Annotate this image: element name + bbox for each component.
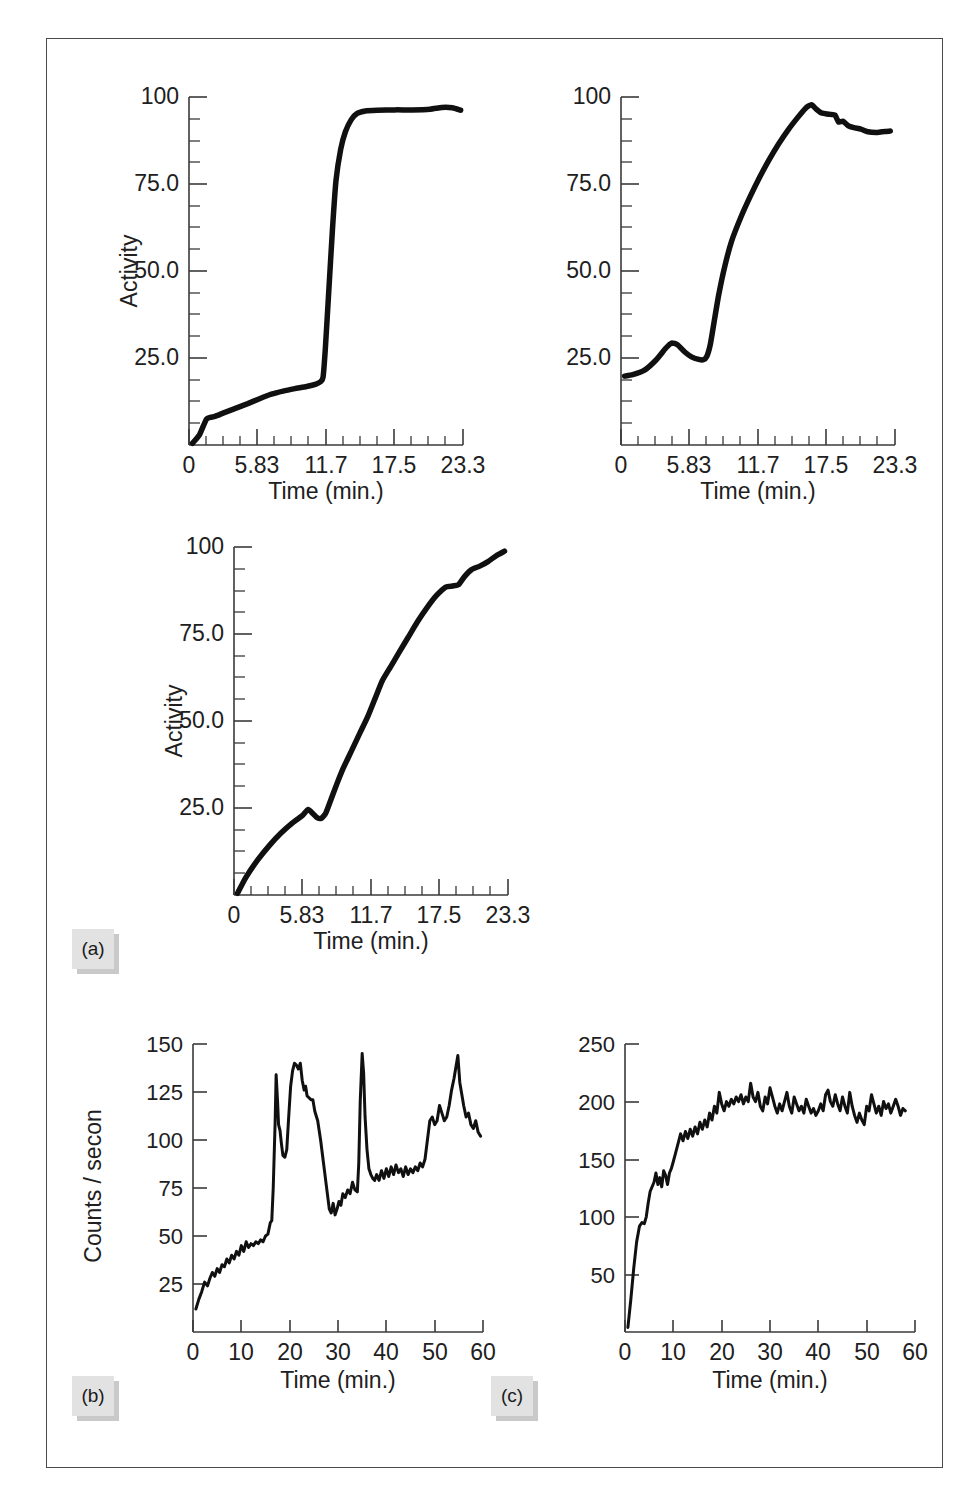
- x-axis-title: Time (min.): [313, 928, 428, 954]
- chart-panel-a-top-right: 100 75.0 50.0 25.0: [499, 59, 919, 499]
- x-tick-label: 11.7: [349, 902, 392, 928]
- y-axis-b: 150 125 100 75 50 25: [146, 1032, 207, 1332]
- y-tick-label: 75.0: [566, 170, 611, 196]
- x-tick-label: 0: [183, 452, 196, 478]
- x-tick-label: 23.3: [486, 902, 531, 928]
- x-axis-title: Time (min.): [280, 1367, 395, 1393]
- y-tick-label: 50.0: [566, 257, 611, 283]
- y-tick-label: 75: [159, 1176, 183, 1201]
- panel-label-c: (c): [491, 1376, 533, 1416]
- y-tick-label: 75.0: [179, 620, 224, 646]
- x-tick-label: 30: [757, 1339, 783, 1365]
- x-tick-label: 50: [854, 1339, 880, 1365]
- x-axis-title: Time (min.): [268, 478, 383, 504]
- y-tick-label: 50: [159, 1224, 183, 1249]
- x-tick-label: 50: [422, 1339, 448, 1365]
- y-axis-title: Counts / secon: [80, 1109, 106, 1262]
- x-tick-label: 5.83: [235, 452, 280, 478]
- y-tick-label: 150: [578, 1148, 615, 1173]
- y-axis-a3: 100 75.0 50.0 25.0: [179, 533, 252, 895]
- y-tick-label: 100: [578, 1205, 615, 1230]
- y-axis-c: 250 200 150 100 50: [578, 1032, 639, 1332]
- y-tick-label: 25.0: [566, 344, 611, 370]
- panel-label-a-text: (a): [81, 938, 104, 960]
- y-axis-title: Activity: [116, 234, 142, 307]
- x-axis-a3: 0 5.83 11.7 17.5 23.3: [228, 879, 531, 928]
- x-tick-label: 17.5: [804, 452, 849, 478]
- x-tick-label: 11.7: [304, 452, 347, 478]
- y-tick-label: 200: [578, 1090, 615, 1115]
- data-curve: [625, 105, 891, 376]
- x-axis-b: 0 10 20 30 40 50 60: [187, 1320, 496, 1365]
- x-axis-a2: 0 5.83 11.7 17.5 23.3: [615, 429, 918, 478]
- x-axis-a1: 0 5.83 11.7 17.5 23.3: [183, 429, 486, 478]
- x-tick-label: 40: [805, 1339, 831, 1365]
- y-tick-label: 100: [141, 83, 179, 109]
- x-tick-label: 20: [277, 1339, 303, 1365]
- y-tick-label: 75.0: [134, 170, 179, 196]
- x-axis-title: Time (min.): [700, 478, 815, 504]
- y-axis-a1: 100 75.0 50.0 25.0: [134, 83, 207, 445]
- panel-label-b-text: (b): [81, 1385, 104, 1407]
- x-tick-label: 23.3: [441, 452, 486, 478]
- y-axis-title: Activity: [161, 684, 187, 757]
- data-curve: [196, 1054, 481, 1309]
- chart-svg-a3: 100 75.0 50.0 25.0: [112, 509, 532, 949]
- data-curve: [193, 107, 461, 443]
- x-axis-c: 0 10 20 30 40 50 60: [619, 1320, 928, 1365]
- x-tick-label: 0: [619, 1339, 632, 1365]
- x-tick-label: 17.5: [417, 902, 462, 928]
- x-tick-label: 40: [373, 1339, 399, 1365]
- data-curve: [628, 1083, 905, 1327]
- y-tick-label: 50: [591, 1263, 615, 1288]
- x-tick-label: 0: [228, 902, 241, 928]
- x-tick-label: 60: [902, 1339, 928, 1365]
- x-tick-label: 23.3: [873, 452, 918, 478]
- y-axis-a2: 100 75.0 50.0 25.0: [566, 83, 639, 445]
- chart-panel-a-middle-left: 100 75.0 50.0 25.0: [112, 509, 532, 949]
- y-tick-label: 100: [186, 533, 224, 559]
- x-tick-label: 5.83: [667, 452, 712, 478]
- chart-svg-a2: 100 75.0 50.0 25.0: [499, 59, 919, 499]
- y-tick-label: 250: [578, 1032, 615, 1057]
- figure-frame: 100 75.0 50.0 25.0: [46, 38, 943, 1468]
- x-tick-label: 0: [187, 1339, 200, 1365]
- y-tick-label: 25.0: [134, 344, 179, 370]
- chart-panel-b: 150 125 100 75 50 25 Counts / secon: [55, 1014, 505, 1374]
- chart-svg-c: 250 200 150 100 50: [487, 1014, 937, 1374]
- chart-panel-c: 250 200 150 100 50: [487, 1014, 937, 1374]
- y-tick-label: 125: [146, 1080, 183, 1105]
- x-tick-label: 0: [615, 452, 628, 478]
- y-tick-label: 25: [159, 1272, 183, 1297]
- y-tick-label: 100: [573, 83, 611, 109]
- data-curve: [238, 551, 505, 893]
- x-tick-label: 5.83: [280, 902, 325, 928]
- y-tick-label: 25.0: [179, 794, 224, 820]
- chart-svg-a1: 100 75.0 50.0 25.0: [67, 59, 487, 499]
- x-axis-title: Time (min.): [712, 1367, 827, 1393]
- y-tick-label: 150: [146, 1032, 183, 1057]
- chart-svg-b: 150 125 100 75 50 25 Counts / secon: [55, 1014, 505, 1374]
- panel-label-b: (b): [72, 1376, 114, 1416]
- x-tick-label: 10: [660, 1339, 686, 1365]
- x-tick-label: 30: [325, 1339, 351, 1365]
- x-tick-label: 11.7: [736, 452, 779, 478]
- y-tick-label: 100: [146, 1128, 183, 1153]
- x-tick-label: 20: [709, 1339, 735, 1365]
- panel-label-a: (a): [72, 929, 114, 969]
- x-tick-label: 10: [228, 1339, 254, 1365]
- chart-panel-a-top-left: 100 75.0 50.0 25.0: [67, 59, 487, 499]
- panel-label-c-text: (c): [501, 1385, 523, 1407]
- x-tick-label: 17.5: [372, 452, 417, 478]
